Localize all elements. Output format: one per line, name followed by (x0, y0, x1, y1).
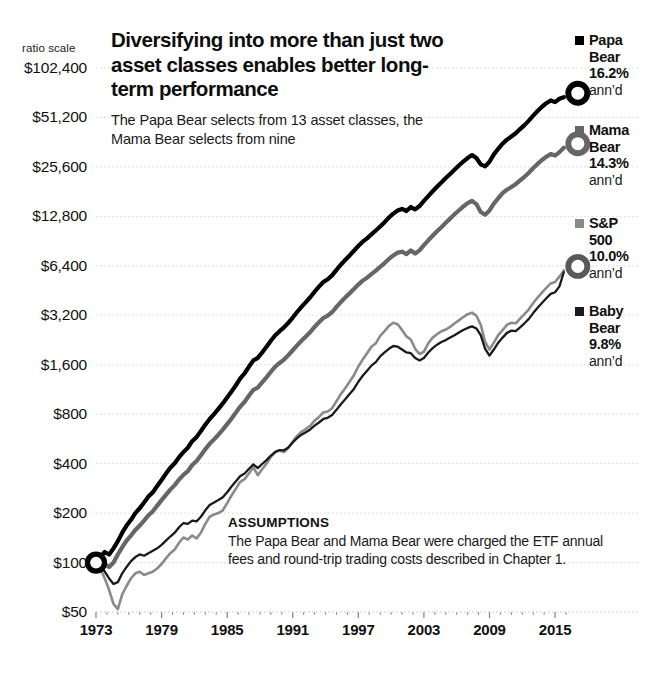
legend-swatch-icon (575, 36, 584, 45)
legend-annualized-return: 9.8% (589, 336, 663, 353)
legend-item-papa[interactable]: PapaBear16.2%ann’d (575, 32, 663, 99)
legend-annualized-suffix: ann’d (589, 353, 663, 370)
legend-series-name: MamaBear (589, 122, 629, 155)
legend-annualized-return: 16.2% (589, 65, 663, 82)
legend-series-name: PapaBear (589, 32, 622, 65)
legend-annualized-return: 10.0% (589, 248, 663, 265)
legend-item-s-p[interactable]: S&P50010.0%ann’d (575, 215, 663, 282)
legend-annualized-suffix: ann’d (589, 172, 663, 189)
legend-annualized-suffix: ann’d (589, 265, 663, 282)
legend-annualized-return: 14.3% (589, 155, 663, 172)
legend-annualized-suffix: ann’d (589, 82, 663, 99)
legend-swatch-icon (575, 126, 584, 135)
legend-series-name: BabyBear (589, 303, 623, 336)
legend-swatch-icon (575, 307, 584, 316)
chart-page: ratio scale $102,400$51,200$25,600$12,80… (0, 0, 664, 676)
legend-series-name-line1: S&P (589, 215, 618, 232)
legend-item-mama[interactable]: MamaBear14.3%ann’d (575, 122, 663, 189)
legend-series-name-line1: Mama (589, 122, 629, 139)
legend-series-name: S&P500 (589, 215, 618, 248)
legend-series-name-line2: 500 (589, 232, 618, 249)
legend-series-name-line1: Baby (589, 303, 623, 320)
legend-series-name-line2: Bear (589, 139, 629, 156)
chart-legend: PapaBear16.2%ann’dMamaBear14.3%ann’dS&P5… (0, 0, 664, 676)
legend-series-name-line2: Bear (589, 49, 622, 66)
legend-item-baby[interactable]: BabyBear9.8%ann’d (575, 303, 663, 370)
legend-swatch-icon (575, 219, 584, 228)
legend-series-name-line1: Papa (589, 32, 622, 49)
legend-series-name-line2: Bear (589, 320, 623, 337)
